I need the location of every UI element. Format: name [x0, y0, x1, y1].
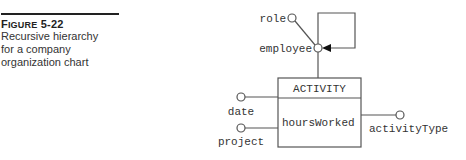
- arrow-head-icon: [322, 44, 331, 52]
- role-label: role: [260, 13, 286, 25]
- attribute-hoursworked: hoursWorked: [282, 117, 355, 129]
- recursive-loop: [318, 13, 355, 48]
- er-diagram: role employee ACTIVITY hoursWorked date …: [0, 0, 466, 160]
- employee-label: employee: [259, 43, 312, 55]
- role-connector: [295, 21, 315, 45]
- project-node-icon: [237, 124, 245, 132]
- date-label: date: [228, 106, 254, 118]
- role-node-icon: [288, 14, 296, 22]
- project-label: project: [218, 136, 264, 148]
- activitytype-node-icon: [396, 111, 404, 119]
- activitytype-label: activityType: [369, 123, 448, 135]
- date-node-icon: [237, 93, 245, 101]
- employee-node-icon: [314, 44, 322, 52]
- entity-name: ACTIVITY: [293, 83, 346, 95]
